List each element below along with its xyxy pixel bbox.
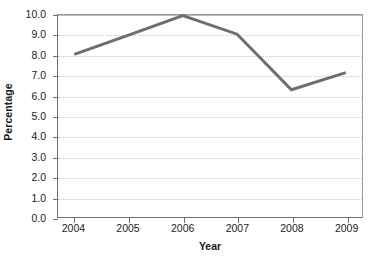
y-tick-mark-4.0 <box>53 137 58 138</box>
y-tick-mark-6.0 <box>53 97 58 98</box>
y-tick-mark-7.0 <box>53 76 58 77</box>
x-axis-title: Year <box>57 240 363 252</box>
y-tick-mark-10.0 <box>53 15 58 16</box>
line-chart-figure: Percentage 0.01.02.03.04.05.06.07.08.09.… <box>0 0 388 262</box>
y-tick-mark-8.0 <box>53 56 58 57</box>
x-tick-label-2004: 2004 <box>62 222 85 234</box>
y-tick-mark-0.0 <box>53 219 58 220</box>
y-tick-mark-5.0 <box>53 117 58 118</box>
y-tick-label-2.0: 2.0 <box>14 172 46 183</box>
y-tick-label-8.0: 8.0 <box>14 50 46 61</box>
x-axis-tick-labels: 200420052006200720082009 <box>57 222 363 238</box>
y-axis-title-label: Percentage <box>2 83 14 141</box>
y-tick-mark-2.0 <box>53 178 58 179</box>
x-tick-label-2005: 2005 <box>116 222 139 234</box>
y-tick-label-1.0: 1.0 <box>14 192 46 203</box>
y-tick-mark-9.0 <box>53 35 58 36</box>
y-tick-mark-3.0 <box>53 158 58 159</box>
y-tick-label-9.0: 9.0 <box>14 29 46 40</box>
series-polyline-percentage <box>74 16 345 90</box>
x-tick-label-2008: 2008 <box>280 222 303 234</box>
x-tick-label-2006: 2006 <box>171 222 194 234</box>
y-tick-label-7.0: 7.0 <box>14 70 46 81</box>
y-tick-label-0.0: 0.0 <box>14 213 46 224</box>
y-axis-tick-labels: 0.01.02.03.04.05.06.07.08.09.010.0 <box>14 14 46 218</box>
y-tick-label-10.0: 10.0 <box>14 9 46 20</box>
y-tick-label-4.0: 4.0 <box>14 131 46 142</box>
x-tick-label-2007: 2007 <box>226 222 249 234</box>
y-tick-mark-1.0 <box>53 199 58 200</box>
plot-area <box>57 14 363 218</box>
y-tick-label-3.0: 3.0 <box>14 152 46 163</box>
series-line-percentage <box>58 15 362 217</box>
x-tick-label-2009: 2009 <box>335 222 358 234</box>
y-tick-label-5.0: 5.0 <box>14 111 46 122</box>
y-tick-label-6.0: 6.0 <box>14 90 46 101</box>
